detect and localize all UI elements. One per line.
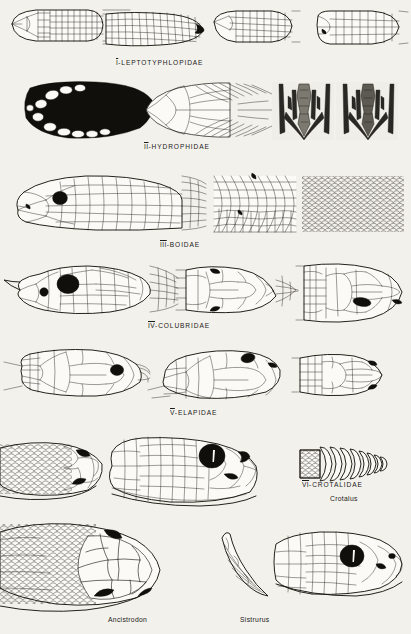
figure-boidae-scale-field bbox=[302, 176, 404, 232]
figure-boidae-lateral-head bbox=[17, 176, 206, 230]
genus-label-sistrurus: Sistrurus bbox=[240, 616, 270, 623]
figure-colubridae-lateral-head bbox=[4, 266, 178, 314]
figure-crotalidae-dorsal-head bbox=[0, 443, 102, 500]
family-elapidae: ELAPIDAE bbox=[178, 409, 217, 416]
illustration-plate: I-LEPTOTYPHLOPIDAE II-HYDROPHIDAE III-BO… bbox=[0, 0, 411, 634]
figure-elapidae-lateral-head-2 bbox=[148, 351, 280, 399]
figure-leptotyphlopidae-3 bbox=[214, 11, 300, 42]
figure-sistrurus-tail bbox=[222, 533, 268, 596]
caption-boidae: III-BOIDAE bbox=[160, 241, 200, 248]
family-crotalidae: CROTALIDAE bbox=[312, 481, 363, 488]
figure-elapidae-dorsal-head bbox=[292, 354, 382, 395]
family-hydrophidae: HYDROPHIDAE bbox=[152, 143, 210, 150]
figure-elapidae-lateral-head-1 bbox=[4, 350, 150, 397]
caption-colubridae: IV-COLUBRIDAE bbox=[148, 322, 210, 329]
figure-sistrurus-lateral-head bbox=[274, 532, 402, 596]
plate-artwork bbox=[0, 0, 411, 634]
caption-hydrophidae: II-HYDROPHIDAE bbox=[144, 143, 210, 150]
family-colubridae: COLUBRIDAE bbox=[158, 322, 210, 329]
family-boidae: BOIDAE bbox=[170, 241, 200, 248]
figure-leptotyphlopidae-2 bbox=[103, 12, 204, 46]
figure-crotalidae-lateral-head-pit bbox=[109, 437, 257, 506]
numeral-colubridae: IV bbox=[148, 322, 155, 329]
numeral-boidae: III bbox=[160, 241, 167, 248]
figure-hydrophidae-shaded-head bbox=[25, 82, 153, 139]
caption-leptotyphlopidae: I-LEPTOTYPHLOPIDAE bbox=[116, 59, 203, 66]
figure-ancistrodon-lateral-head bbox=[0, 524, 160, 612]
figure-hydrophidae-skull-ventral bbox=[336, 82, 398, 140]
genus-label-crotalus: Crotalus bbox=[330, 495, 358, 502]
family-leptotyphlopidae: LEPTOTYPHLOPIDAE bbox=[121, 59, 203, 66]
figure-leptotyphlopidae-4 bbox=[317, 11, 408, 44]
figure-hydrophidae-dorsal-head bbox=[146, 83, 272, 137]
figure-boidae-dorsal-head bbox=[214, 173, 296, 232]
figure-crotalidae-rattle bbox=[300, 447, 387, 481]
genus-label-ancistrodon: Ancistrodon bbox=[108, 616, 147, 623]
numeral-crotalidae: VI bbox=[302, 481, 309, 488]
figure-colubridae-dorsal-head-enlarged bbox=[296, 264, 402, 322]
figure-colubridae-dorsal-head bbox=[176, 267, 298, 313]
caption-crotalidae: VI-CROTALIDAE bbox=[302, 481, 363, 488]
figure-hydrophidae-skull-dorsal bbox=[272, 82, 334, 140]
caption-elapidae: V-ELAPIDAE bbox=[170, 409, 217, 416]
